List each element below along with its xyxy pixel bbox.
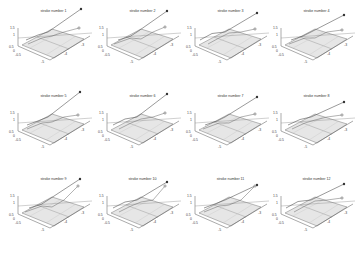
z-tick: 1 [102, 118, 104, 122]
z-tick: 1 [190, 33, 192, 37]
x-tick: -3 [81, 43, 84, 47]
z-tick: 1.5 [187, 194, 192, 198]
x-tick: -4 [327, 52, 330, 56]
z-tick: 1.5 [273, 26, 278, 30]
z-tick: 1.5 [187, 26, 192, 30]
x-tick: -3 [344, 211, 347, 215]
x-tick: -5 [41, 228, 44, 232]
3d-plot [185, 87, 276, 171]
z-tick: 1 [276, 33, 278, 37]
x-tick: -5 [304, 145, 307, 149]
x-tick: -5 [41, 145, 44, 149]
end-marker-filled [256, 96, 258, 98]
y-tick: -0.5 [278, 221, 284, 225]
x-tick: -4 [64, 137, 67, 141]
x-tick: -3 [170, 128, 173, 132]
z-tick: 1.5 [10, 111, 15, 115]
end-marker-filled [166, 181, 168, 183]
z-tick: 1.5 [273, 194, 278, 198]
subplot-panel: stroke number 4 [271, 2, 362, 86]
x-tick: -3 [81, 128, 84, 132]
subplot-grid: stroke number 1 [0, 0, 364, 254]
subplot-panel: stroke number 11 [185, 170, 276, 254]
end-marker-open [77, 185, 79, 187]
end-marker-filled [80, 8, 82, 10]
x-tick: -5 [218, 228, 221, 232]
end-marker-filled [343, 183, 345, 185]
z-tick: 1.5 [99, 194, 104, 198]
x-tick: -5 [218, 60, 221, 64]
z-tick: 1 [276, 118, 278, 122]
y-tick: -0.5 [15, 221, 21, 225]
z-tick: 1.5 [273, 111, 278, 115]
end-marker-filled [79, 178, 81, 180]
end-marker-filled [166, 10, 168, 12]
y-tick: -0.5 [192, 53, 198, 57]
subplot-panel: stroke number 5 [8, 87, 99, 171]
end-marker-open [164, 26, 166, 28]
z-tick: 1 [102, 201, 104, 205]
x-tick: -4 [241, 52, 244, 56]
end-marker-open [254, 185, 256, 187]
subplot-panel: stroke number 6 [97, 87, 188, 171]
subplot-panel: stroke number 8 [271, 87, 362, 171]
x-tick: -3 [170, 43, 173, 47]
x-tick: -4 [241, 137, 244, 141]
z-tick: 1 [190, 201, 192, 205]
x-tick: -3 [81, 211, 84, 215]
3d-plot [271, 2, 362, 86]
subplot-panel: stroke number 12 [271, 170, 362, 254]
y-tick: -0.5 [278, 138, 284, 142]
x-tick: -4 [153, 220, 156, 224]
z-tick: 1.5 [187, 111, 192, 115]
y-tick: -0.5 [104, 53, 110, 57]
end-marker-filled [256, 12, 258, 14]
end-marker-open [341, 197, 343, 199]
y-tick: -0.5 [104, 138, 110, 142]
x-tick: -4 [153, 52, 156, 56]
3d-plot [97, 87, 188, 171]
x-tick: -4 [241, 220, 244, 224]
z-tick: 1.5 [99, 111, 104, 115]
end-marker-open [341, 29, 343, 31]
end-marker-open [341, 114, 343, 116]
z-tick: 1 [13, 33, 15, 37]
x-tick: -3 [258, 128, 261, 132]
x-tick: -5 [41, 60, 44, 64]
y-tick: -0.5 [192, 138, 198, 142]
y-tick: -0.5 [104, 221, 110, 225]
end-marker-open [77, 114, 79, 116]
x-tick: -3 [258, 43, 261, 47]
subplot-panel: stroke number 9 [8, 170, 99, 254]
3d-plot [271, 87, 362, 171]
y-tick: -0.5 [15, 53, 21, 57]
z-tick: 1 [13, 118, 15, 122]
end-marker-open [254, 28, 256, 30]
end-marker-filled [343, 101, 345, 103]
x-tick: -3 [344, 128, 347, 132]
x-tick: -4 [327, 137, 330, 141]
x-tick: -4 [64, 52, 67, 56]
end-marker-filled [79, 91, 81, 93]
z-tick: 1 [102, 33, 104, 37]
z-tick: 1.5 [10, 26, 15, 30]
subplot-panel: stroke number 10 [97, 170, 188, 254]
z-tick: 1 [276, 201, 278, 205]
end-marker-open [254, 113, 256, 115]
subplot-panel: stroke number 7 [185, 87, 276, 171]
x-tick: -5 [304, 60, 307, 64]
x-tick: -4 [153, 137, 156, 141]
x-tick: -4 [64, 220, 67, 224]
z-tick: 1 [190, 118, 192, 122]
subplot-panel: stroke number 1 [8, 2, 99, 86]
subplot-panel: stroke number 2 [97, 2, 188, 86]
z-tick: 1.5 [99, 26, 104, 30]
x-tick: -4 [327, 220, 330, 224]
end-marker-filled [343, 14, 345, 16]
3d-plot [185, 2, 276, 86]
3d-plot [8, 170, 99, 254]
3d-plot [185, 170, 276, 254]
x-tick: -5 [218, 145, 221, 149]
end-marker-open [164, 112, 166, 114]
y-tick: -0.5 [15, 138, 21, 142]
